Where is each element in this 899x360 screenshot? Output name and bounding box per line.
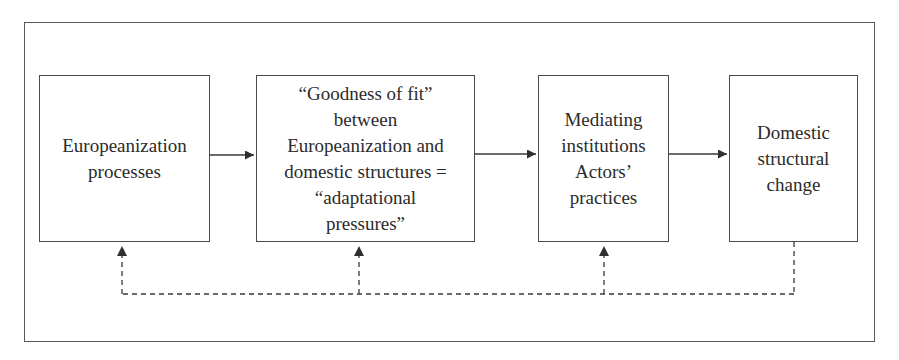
node-mediating-institutions: Mediating institutions Actors’ practices [538,75,669,242]
node-label: “Goodness of fit” between Europeanizatio… [284,81,447,237]
node-europeanization-processes: Europeanization processes [39,75,210,242]
node-label: Domestic structural change [757,120,830,198]
node-label: Europeanization processes [62,133,187,185]
node-label: Mediating institutions Actors’ practices [561,107,645,211]
node-goodness-of-fit: “Goodness of fit” between Europeanizatio… [256,75,475,242]
node-domestic-structural-change: Domestic structural change [729,75,858,242]
